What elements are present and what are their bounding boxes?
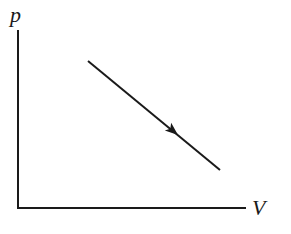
v-axis-label: V (252, 197, 265, 219)
p-axis-label: p (10, 4, 21, 26)
diagram-graphics (0, 0, 291, 234)
process-line (88, 61, 220, 170)
pv-diagram: p V (0, 0, 291, 234)
